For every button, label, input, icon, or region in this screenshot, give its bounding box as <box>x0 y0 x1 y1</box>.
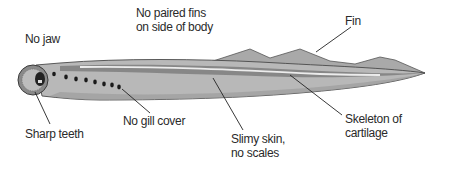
label-sharp-teeth: Sharp teeth <box>25 127 84 141</box>
label-no-paired-fins-1: No paired fins <box>136 6 206 20</box>
label-fin: Fin <box>345 14 361 28</box>
label-skeleton-2: cartilage <box>345 126 388 140</box>
label-no-gill-cover: No gill cover <box>123 114 185 128</box>
lamprey-diagram: No jaw No paired fins on side of body Fi… <box>0 0 449 176</box>
label-slimy-skin-2: no scales <box>231 146 279 160</box>
label-no-jaw: No jaw <box>25 32 60 46</box>
lamprey-illustration <box>0 0 449 176</box>
label-skeleton-1: Skeleton of <box>345 112 402 126</box>
label-no-paired-fins-2: on side of body <box>136 20 213 34</box>
label-slimy-skin-1: Slimy skin, <box>231 132 285 146</box>
